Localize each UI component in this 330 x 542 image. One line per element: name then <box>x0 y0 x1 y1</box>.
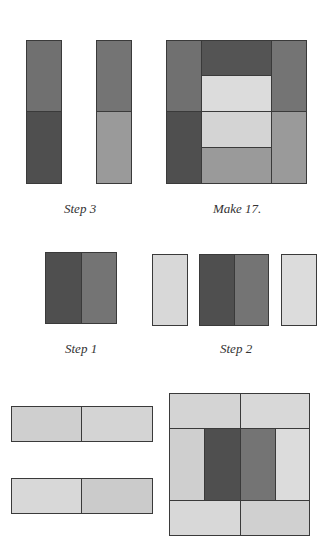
fabric-patch <box>166 111 202 184</box>
fabric-patch <box>45 252 82 324</box>
fabric-patch <box>201 147 272 184</box>
fabric-patch <box>281 254 317 326</box>
fabric-patch <box>199 254 235 326</box>
fabric-patch <box>234 254 269 326</box>
fabric-patch <box>271 111 307 184</box>
fabric-patch <box>81 478 153 514</box>
fabric-patch <box>11 478 82 514</box>
fabric-patch <box>81 406 153 442</box>
fabric-patch <box>201 111 272 148</box>
fabric-patch <box>26 40 62 112</box>
fabric-patch <box>201 40 272 76</box>
fabric-patch <box>152 254 188 326</box>
fabric-patch <box>201 75 272 112</box>
caption-step1: Step 1 <box>65 341 97 357</box>
fabric-patch <box>96 111 132 184</box>
fabric-patch <box>240 500 310 536</box>
fabric-patch <box>240 428 276 501</box>
fabric-patch <box>26 111 62 184</box>
caption-step2: Step 2 <box>220 341 252 357</box>
fabric-patch <box>96 40 132 112</box>
fabric-patch <box>11 406 82 442</box>
fabric-patch <box>81 252 117 324</box>
caption-make17: Make 17. <box>213 201 261 217</box>
caption-step3: Step 3 <box>64 201 96 217</box>
fabric-patch <box>271 40 307 112</box>
fabric-patch <box>166 40 202 112</box>
fabric-patch <box>204 428 241 501</box>
fabric-patch <box>240 393 310 429</box>
fabric-patch <box>275 428 310 501</box>
fabric-patch <box>169 428 205 501</box>
fabric-patch <box>169 393 241 429</box>
fabric-patch <box>169 500 241 536</box>
